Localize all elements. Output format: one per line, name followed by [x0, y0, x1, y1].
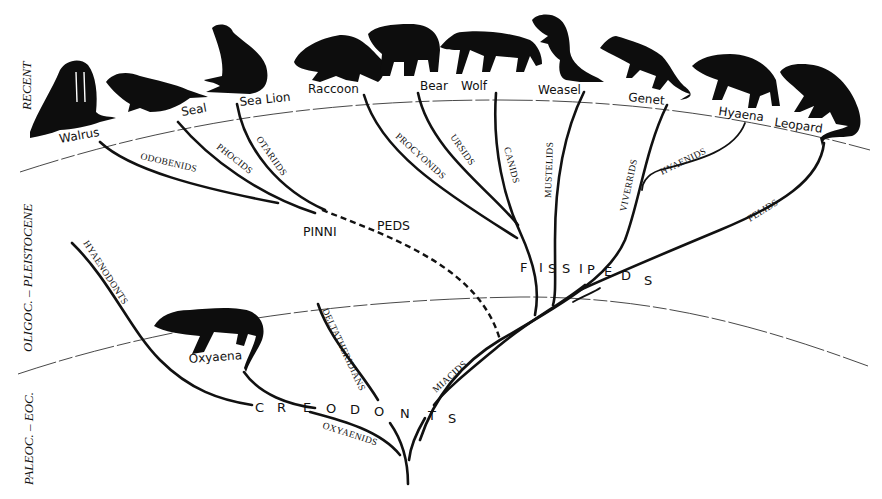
species-label-wolf: Wolf: [461, 79, 488, 93]
group-label-peds: PEDS: [377, 218, 410, 233]
species-label-weasel: Weasel: [538, 83, 581, 97]
era-label-recent: RECENT: [19, 61, 34, 111]
branch-odobenids: [100, 142, 278, 203]
svg-text:D: D: [350, 402, 360, 417]
paleocene-boundary-line: [18, 297, 868, 374]
family-label-phocids: PHOCIDS: [215, 142, 255, 176]
hyaena-silhouette: [692, 54, 780, 108]
svg-text:I: I: [539, 260, 543, 275]
svg-text:O: O: [326, 401, 336, 416]
branch-canids: [495, 93, 537, 315]
raccoon-silhouette: [294, 35, 384, 82]
species-label-seal: Seal: [180, 101, 208, 119]
svg-text:R: R: [277, 400, 286, 415]
svg-text:C: C: [255, 400, 264, 415]
weasel-silhouette: [532, 14, 604, 82]
species-label-oxyaena: Oxyaena: [188, 348, 242, 366]
species-label-bear: Bear: [420, 79, 448, 93]
group-label-pinni: PINNI: [303, 224, 337, 239]
svg-text:N: N: [400, 406, 410, 421]
branch-otariids: [237, 104, 325, 210]
family-label-ursids: URSIDS: [448, 132, 477, 167]
svg-text:S: S: [644, 273, 652, 288]
svg-text:S: S: [548, 261, 556, 276]
genet-silhouette: [600, 36, 691, 100]
svg-text:P: P: [587, 262, 595, 277]
wolf-silhouette: [440, 31, 542, 74]
family-label-hyaenids: HYAENIDS: [658, 146, 707, 177]
branch-felids: [580, 143, 824, 290]
svg-text:I: I: [579, 261, 583, 276]
branch-pinnipeds-dashed: [322, 210, 500, 340]
era-label-paleocene-eocene: PALEOC. – EOC.: [21, 392, 36, 486]
species-label-raccoon: Raccoon: [308, 82, 359, 96]
svg-text:S: S: [562, 261, 570, 276]
carnivore-phylogeny-diagram: RECENT OLIGOC. – PLEISTOCENE PALEOC. – E…: [0, 0, 882, 499]
family-label-mustelids: MUSTELIDS: [543, 142, 555, 198]
family-label-canids: CANIDS: [502, 146, 521, 184]
svg-text:E: E: [303, 400, 311, 415]
svg-text:F: F: [520, 260, 527, 275]
svg-text:T: T: [427, 408, 436, 423]
svg-text:D: D: [621, 268, 631, 283]
group-label-fissipeds: F I S S I P E D S: [520, 260, 652, 288]
era-label-oligocene-pleistocene: OLIGOC. – PLEISTOCENE: [20, 204, 35, 352]
svg-text:S: S: [448, 411, 456, 426]
species-label-genet: Genet: [628, 90, 666, 108]
svg-text:O: O: [374, 404, 384, 419]
family-label-deltatheridians: DELTATHERIDIANS: [320, 307, 367, 393]
family-label-hyaenodonts: HYAENODONTS: [81, 239, 130, 307]
branch-creodont-right: [409, 418, 425, 460]
family-label-felids: FELIDS: [746, 197, 780, 223]
walrus-silhouette: [30, 60, 116, 138]
sea-lion-silhouette: [204, 25, 267, 94]
svg-text:E: E: [604, 264, 612, 279]
